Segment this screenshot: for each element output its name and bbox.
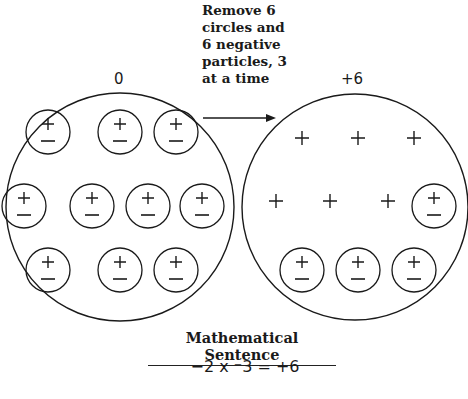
neutral-pair-circle (336, 248, 380, 292)
neutral-pair-circle (412, 184, 456, 228)
positive-particle-icon (323, 194, 337, 208)
positive-particle-icon (351, 131, 365, 145)
positive-particle-icon (170, 118, 182, 130)
neutral-pair-circle (70, 184, 114, 228)
neutral-pair-circle (26, 248, 70, 292)
positive-particle-icon (381, 194, 395, 208)
positive-particle-icon (42, 118, 54, 130)
positive-particle-icon (18, 192, 30, 204)
positive-particle-icon (196, 192, 208, 204)
neutral-pair-circle (392, 248, 436, 292)
positive-particle-icon (114, 256, 126, 268)
positive-particle-icon (295, 131, 309, 145)
neutral-pair-circle (98, 110, 142, 154)
neutral-pair-circle (2, 184, 46, 228)
positive-particle-icon (170, 256, 182, 268)
neutral-pair-circle (26, 110, 70, 154)
positive-particle-icon (296, 256, 308, 268)
neutral-pair-circle (154, 110, 198, 154)
positive-particle-icon (407, 131, 421, 145)
positive-particle-icon (269, 194, 283, 208)
positive-particle-icon (428, 192, 440, 204)
neutral-pair-circle (154, 248, 198, 292)
positive-particle-icon (142, 192, 154, 204)
positive-particle-icon (352, 256, 364, 268)
particle-diagram (0, 0, 468, 330)
positive-particle-icon (114, 118, 126, 130)
arrow-head-icon (266, 114, 276, 122)
neutral-pair-circle (126, 184, 170, 228)
positive-particle-icon (86, 192, 98, 204)
neutral-pair-circle (280, 248, 324, 292)
equation: −2 x ⁻3 = +6 (160, 357, 330, 376)
positive-particle-icon (42, 256, 54, 268)
neutral-pair-circle (180, 184, 224, 228)
positive-particle-icon (408, 256, 420, 268)
neutral-pair-circle (98, 248, 142, 292)
